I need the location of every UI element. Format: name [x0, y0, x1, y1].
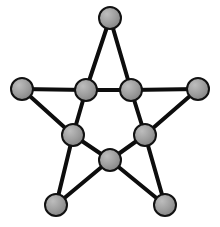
graph-node-circle[interactable]	[154, 194, 176, 216]
graph-node-circle[interactable]	[11, 78, 33, 100]
graph-node-circle[interactable]	[134, 124, 156, 146]
graph-node[interactable]	[154, 194, 176, 216]
figure-background	[0, 0, 220, 227]
graph-node-circle[interactable]	[45, 194, 67, 216]
graph-node[interactable]	[187, 78, 209, 100]
graph-node-circle[interactable]	[187, 78, 209, 100]
graph-node[interactable]	[99, 7, 121, 29]
graph-canvas	[0, 0, 220, 227]
graph-node-circle[interactable]	[75, 79, 97, 101]
graph-node[interactable]	[134, 124, 156, 146]
graph-node[interactable]	[11, 78, 33, 100]
graph-figure	[0, 0, 220, 227]
graph-node-circle[interactable]	[99, 7, 121, 29]
graph-node-circle[interactable]	[62, 124, 84, 146]
graph-node[interactable]	[120, 79, 142, 101]
graph-node[interactable]	[45, 194, 67, 216]
graph-node[interactable]	[62, 124, 84, 146]
graph-node[interactable]	[75, 79, 97, 101]
graph-node-circle[interactable]	[99, 149, 121, 171]
graph-node[interactable]	[99, 149, 121, 171]
graph-node-circle[interactable]	[120, 79, 142, 101]
